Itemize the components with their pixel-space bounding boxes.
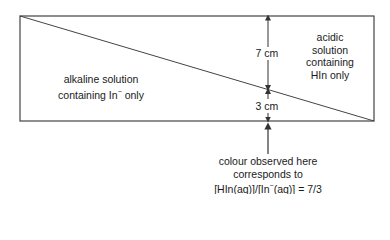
ratio-fraction: 7/3 (307, 183, 322, 195)
caption-ratio: [HIn(aq)]/[In−(aq)] = 7/3 (198, 180, 338, 194)
upper-distance-label: 7 cm (252, 47, 282, 60)
acidic-label-line2: solution (295, 44, 365, 57)
caption-line1: colour observed here (198, 155, 338, 168)
acidic-label-line4: HIn only (295, 69, 365, 82)
alkaline-label-line2: containing In− only (36, 86, 166, 101)
caption-line2: corresponds to (198, 168, 338, 181)
alkaline-region-label: alkaline solution containing In− only (36, 73, 166, 101)
caption: colour observed here corresponds to [HIn… (198, 155, 338, 194)
acidic-label-line1: acidic (295, 31, 365, 44)
lower-distance-label: 3 cm (252, 100, 282, 113)
acidic-region-label: acidic solution containing HIn only (295, 31, 365, 81)
acidic-label-line3: containing (295, 56, 365, 69)
alkaline-label-line1: alkaline solution (36, 73, 166, 86)
